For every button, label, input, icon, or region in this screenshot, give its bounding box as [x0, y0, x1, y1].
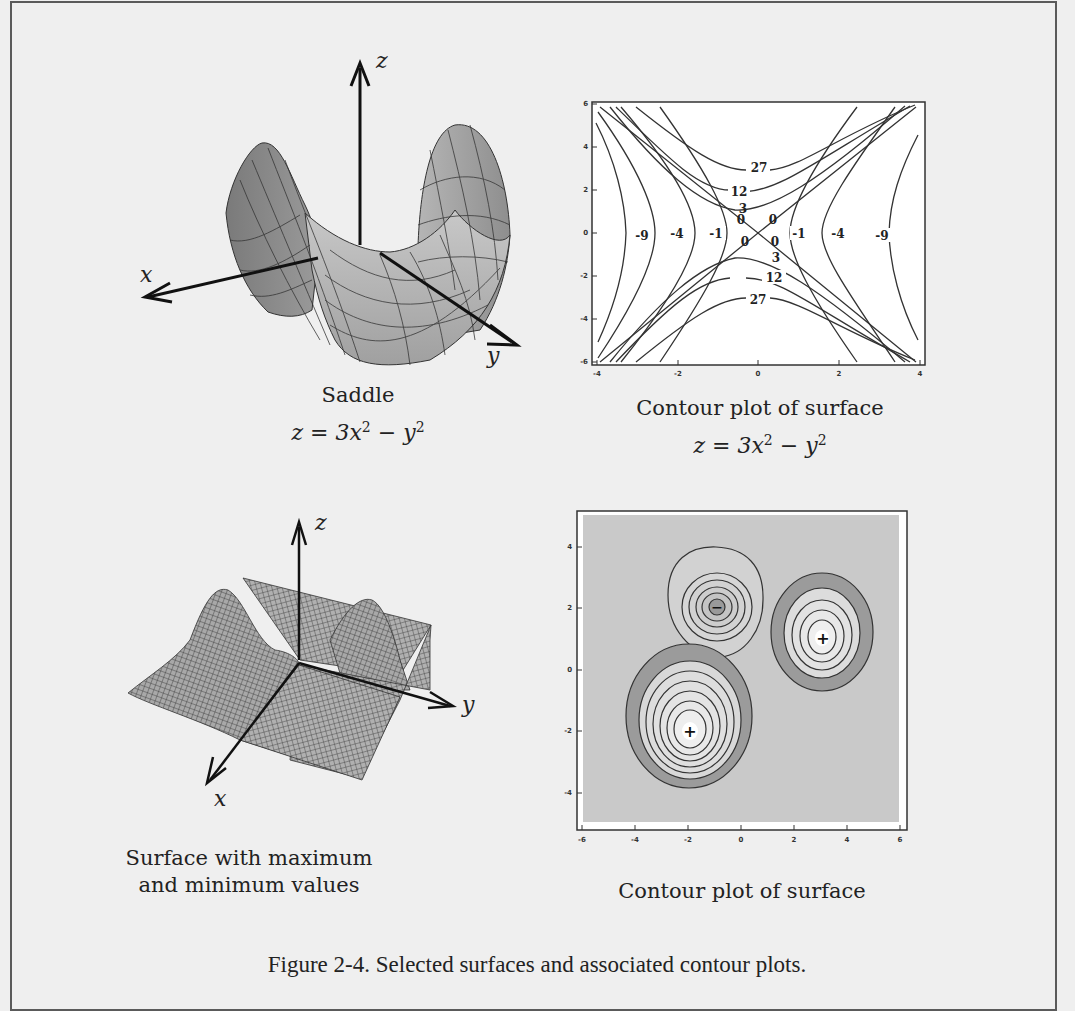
contour-label: 12 — [766, 271, 783, 285]
plus-icon: + — [816, 629, 829, 648]
formula-exp1: 2 — [362, 419, 371, 435]
maximum-blob-left: + — [626, 644, 752, 788]
formula-lhs: z — [693, 433, 705, 458]
saddle-contour-formula: z = 3x2 − y2 — [693, 432, 826, 458]
contour-label: -9 — [875, 229, 888, 243]
contour-label: 0 — [769, 213, 777, 227]
y-tick: 2 — [583, 186, 588, 194]
formula-exp2: 2 — [416, 419, 425, 435]
figure-caption: Figure 2-4. Selected surfaces and associ… — [268, 952, 806, 978]
plus-icon: + — [683, 722, 696, 741]
y-tick: -4 — [564, 789, 572, 797]
saddle-formula: z = 3x2 − y2 — [291, 419, 424, 445]
formula-term1: 3x — [335, 420, 361, 445]
formula-exp1: 2 — [764, 432, 773, 448]
formula-term2: y — [403, 420, 415, 445]
saddle-contour-panel: -4 -2 0 2 4 6 4 2 0 -2 -4 -6 — [560, 90, 960, 470]
y-tick: 4 — [583, 143, 588, 151]
x-tick: 0 — [756, 370, 761, 378]
formula-lhs: z — [291, 420, 303, 445]
x-tick: 4 — [845, 836, 850, 844]
y-tick: 0 — [583, 229, 588, 237]
extrema-contour-panel: − + + -6 — [540, 500, 940, 920]
z-axis-label: z — [375, 48, 388, 73]
x-tick: -4 — [593, 370, 601, 378]
x-tick: 4 — [918, 370, 923, 378]
contour-label: 0 — [771, 235, 779, 249]
x-tick: -2 — [674, 370, 682, 378]
formula-op: − — [780, 433, 798, 458]
saddle-surface-plot: z x y — [0, 0, 540, 470]
contour-label: 27 — [750, 293, 767, 307]
contour-label: 3 — [772, 251, 780, 265]
formula-eq: = — [310, 420, 328, 445]
x-tick: -2 — [684, 836, 692, 844]
extrema-contour-title: Contour plot of surface — [618, 879, 865, 903]
y-tick: -2 — [580, 272, 588, 280]
x-tick: -6 — [578, 836, 586, 844]
saddle-contour-plot: -4 -2 0 2 4 6 4 2 0 -2 -4 -6 — [560, 90, 960, 390]
y-tick: -6 — [580, 358, 588, 366]
contour-label: -4 — [831, 227, 844, 241]
y-tick: 6 — [583, 100, 588, 108]
y-tick: 2 — [567, 604, 572, 612]
x-axis-label: x — [140, 262, 153, 287]
contour-label: -4 — [670, 227, 683, 241]
x-tick: 6 — [898, 836, 903, 844]
contour-label: -9 — [635, 229, 648, 243]
contour-label: -1 — [709, 227, 722, 241]
formula-eq: = — [712, 433, 730, 458]
y-axis-label: y — [461, 692, 475, 717]
extrema-surface-title-line1: Surface with maximum — [126, 846, 373, 870]
saddle-title: Saddle — [322, 383, 395, 407]
x-tick: -4 — [631, 836, 639, 844]
contour-label: 0 — [737, 213, 745, 227]
y-tick: -4 — [580, 315, 588, 323]
x-axis-label: x — [214, 786, 227, 811]
saddle-contour-title: Contour plot of surface — [636, 396, 883, 420]
x-tick: 2 — [837, 370, 842, 378]
contour-label: 12 — [731, 185, 748, 199]
y-tick: 4 — [567, 543, 572, 551]
formula-term2: y — [805, 433, 817, 458]
formula-term1: 3x — [737, 433, 763, 458]
extrema-surface-title-line2: and minimum values — [139, 873, 360, 897]
contour-label: 0 — [741, 235, 749, 249]
formula-exp2: 2 — [818, 432, 827, 448]
saddle-surface-panel: z x y Saddle z = 3x2 − y2 — [0, 0, 540, 470]
x-tick: 0 — [739, 836, 744, 844]
extrema-surface-panel: z y x Surface with maximum and minimum v… — [0, 480, 540, 920]
contour-label: 27 — [751, 161, 768, 175]
extrema-surface-plot: z y x — [0, 480, 540, 820]
x-tick: 2 — [792, 836, 797, 844]
z-axis-label: z — [314, 510, 327, 535]
y-tick: 0 — [567, 666, 572, 674]
extrema-contour-plot: − + + -6 — [540, 500, 940, 850]
minus-icon: − — [711, 599, 723, 615]
y-axis-label: y — [486, 343, 500, 368]
formula-op: − — [378, 420, 396, 445]
y-tick: -2 — [564, 727, 572, 735]
contour-label: -1 — [792, 227, 805, 241]
maximum-blob-right: + — [771, 573, 873, 691]
